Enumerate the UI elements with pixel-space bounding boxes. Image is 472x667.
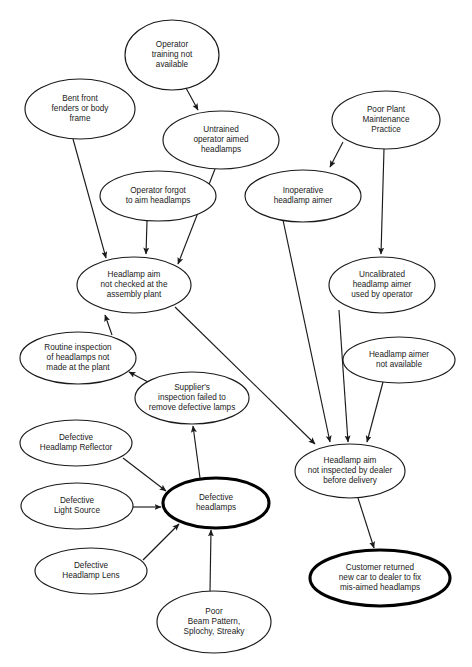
node-uncalibrated-aimer[interactable]: Uncalibratedheadlamp aimerused by operat… — [329, 257, 435, 313]
node-defective-light-source[interactable]: DefectiveLight Source — [21, 483, 133, 529]
edge-arrow — [146, 221, 147, 254]
node-label: Operatortraining notavailable — [152, 40, 193, 69]
node-label: Headlamp aimnot checked at theassembly p… — [101, 270, 168, 299]
node-label: Defectiveheadlamps — [196, 493, 236, 512]
edge-arrow — [358, 498, 374, 548]
edge-arrow — [129, 372, 148, 382]
node-label: Operator forgotto aim headlamps — [126, 186, 191, 205]
edge-arrow — [210, 530, 211, 591]
node-aim-not-checked-plant[interactable]: Headlamp aimnot checked at theassembly p… — [77, 257, 191, 313]
node-supplier-inspection-failed[interactable]: Supplier'sinspection failed toremove def… — [135, 372, 249, 424]
node-operator-training[interactable]: Operatortraining notavailable — [125, 20, 219, 90]
node-inoperative-aimer[interactable]: Inoperativeheadlamp aimer — [245, 170, 361, 222]
nodes-layer: Operatortraining notavailableBent frontf… — [20, 20, 455, 653]
edge-arrow — [143, 524, 179, 560]
node-routine-inspection[interactable]: Routine inspectionof headlamps notmade a… — [20, 332, 136, 384]
node-defective-headlamp-reflector[interactable]: DefectiveHeadlamp Reflector — [20, 420, 132, 466]
node-defective-headlamps[interactable]: Defectiveheadlamps — [163, 478, 269, 528]
edge-arrow — [381, 149, 384, 254]
node-label: Routine inspectionof headlamps notmade a… — [44, 343, 112, 372]
node-poor-plant-maintenance[interactable]: Poor PlantMaintenancePractice — [332, 91, 440, 149]
node-customer-returned[interactable]: Customer returnednew car to dealer to fi… — [310, 550, 450, 606]
node-aim-not-inspected-dealer[interactable]: Headlamp aimnot inspected by dealerbefor… — [295, 444, 405, 498]
edge-arrow — [193, 426, 200, 478]
edge-arrow — [105, 315, 112, 335]
causal-diagram-canvas: Operatortraining notavailableBent frontf… — [0, 0, 472, 667]
node-poor-beam-pattern[interactable]: PoorBeam Pattern,Splochy, Streaky — [157, 591, 271, 653]
edge-arrow — [283, 220, 330, 442]
edge-arrow — [367, 382, 383, 442]
node-label: Headlamp aimernot available — [369, 350, 429, 369]
edge-arrow — [186, 88, 198, 110]
node-headlamp-aimer-not-available[interactable]: Headlamp aimernot available — [343, 337, 455, 383]
node-label: Uncalibratedheadlamp aimerused by operat… — [351, 270, 413, 299]
node-label: DefectiveLight Source — [54, 496, 100, 515]
clipped-header-text — [0, 0, 472, 12]
node-untrained-operator[interactable]: Untrainedoperator aimedheadlamps — [163, 111, 279, 169]
edge-arrow — [339, 310, 348, 442]
node-operator-forgot[interactable]: Operator forgotto aim headlamps — [100, 171, 216, 221]
causal-diagram-svg: Operatortraining notavailableBent frontf… — [0, 0, 472, 667]
edge-arrow — [330, 142, 343, 167]
node-defective-headlamp-lens[interactable]: DefectiveHeadlamp Lens — [35, 548, 147, 594]
node-label: Customer returnednew car to dealer to fi… — [339, 563, 421, 592]
edge-arrow — [123, 458, 166, 491]
node-bent-front-fenders[interactable]: Bent frontfenders or bodyframe — [25, 79, 135, 139]
